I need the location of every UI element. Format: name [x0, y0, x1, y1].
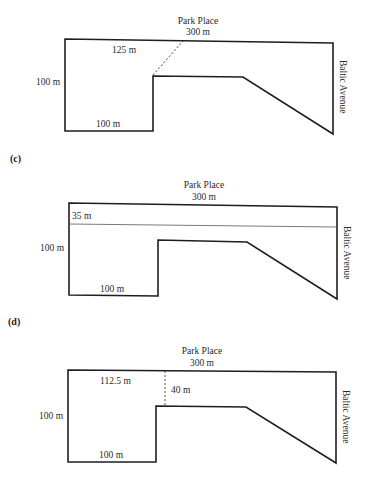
left-length-label: 100 m [39, 411, 64, 421]
bottom-length-label: 100 m [99, 450, 124, 460]
left-length-label: 100 m [40, 243, 65, 253]
bottom-length-label: 100 m [96, 119, 121, 129]
top-street-label: Park Place [184, 180, 224, 190]
left-length-label: 100 m [36, 77, 61, 87]
dashed-divider [153, 41, 183, 75]
top-length-label: 300 m [190, 358, 215, 368]
lot-diagrams: Park Place 300 m 125 m 100 m 100 m Balti… [0, 0, 369, 487]
top-length-label: 300 m [192, 192, 217, 202]
top-street-label: Park Place [178, 16, 218, 26]
annotation-depth: 40 m [171, 385, 191, 395]
right-street-label: Baltic Avenue [341, 390, 351, 443]
figure-d: Park Place 300 m 112.5 m 40 m 100 m 100 … [39, 346, 351, 463]
annotation-length: 112.5 m [100, 376, 131, 386]
annotation-length: 125 m [112, 45, 137, 55]
part-label-d: (d) [8, 316, 20, 328]
figure-b: Park Place 300 m 125 m 100 m 100 m Balti… [36, 16, 348, 134]
strip-divider-line [69, 224, 337, 227]
right-street-label: Baltic Avenue [338, 60, 348, 113]
top-street-label: Park Place [182, 346, 222, 356]
figure-c: Park Place 300 m 35 m 100 m 100 m Baltic… [40, 180, 352, 299]
right-street-label: Baltic Avenue [342, 226, 352, 279]
top-length-label: 300 m [186, 27, 211, 37]
part-label-c: (c) [10, 153, 21, 165]
annotation-length: 35 m [72, 211, 92, 221]
bottom-length-label: 100 m [100, 284, 125, 294]
